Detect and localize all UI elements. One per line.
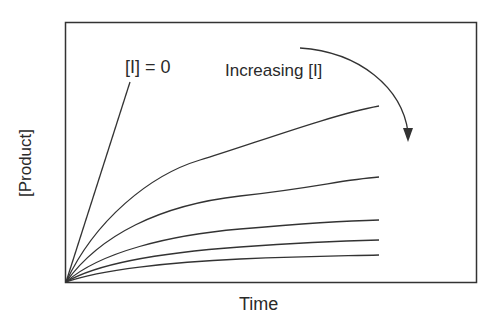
series-inhibitor-3 <box>66 220 379 282</box>
series-inhibitor-4 <box>66 240 379 282</box>
series-inhibitor-5 <box>66 255 379 282</box>
series-inhibitor-2 <box>66 177 379 282</box>
chart-canvas <box>0 0 501 326</box>
label-increasing-inhibitor: Increasing [I] <box>225 62 322 79</box>
x-axis-label: Time <box>239 295 278 313</box>
arrowhead-icon <box>403 128 413 142</box>
label-zero-inhibitor: [I] = 0 <box>125 58 171 76</box>
y-axis-label: [Product] <box>16 129 36 197</box>
